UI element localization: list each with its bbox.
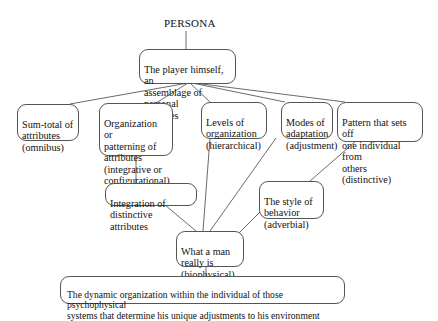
node-levels: Levels of organization (hierarchical) [201,102,267,139]
node-modes: Modes of adaptation (adjustment) [281,102,333,139]
node-organization: Organization or patterning of attributes… [99,103,173,156]
node-what-a-man-text: What a man really is (biophysical) [181,246,235,280]
node-style: The style of behavior (adverbial) [259,181,324,219]
node-pattern: Pattern that sets off one individual fro… [337,102,423,142]
node-organization-text: Organization or patterning of attributes… [104,118,170,187]
node-modes-text: Modes of adaptation (adjustment) [286,117,338,151]
node-dynamic: The dynamic organization within the indi… [60,276,345,304]
node-what-a-man: What a man really is (biophysical) [176,231,244,267]
diagram-title: PERSONA [164,17,216,29]
node-integration: Integration of distinctive attributes [105,183,197,206]
node-sum-total: Sum-total of attributes (omnibus) [17,104,79,141]
node-style-text: The style of behavior (adverbial) [264,196,313,230]
node-player: The player himself, an assemblage of per… [139,49,236,84]
node-levels-text: Levels of organization (hierarchical) [206,117,261,151]
